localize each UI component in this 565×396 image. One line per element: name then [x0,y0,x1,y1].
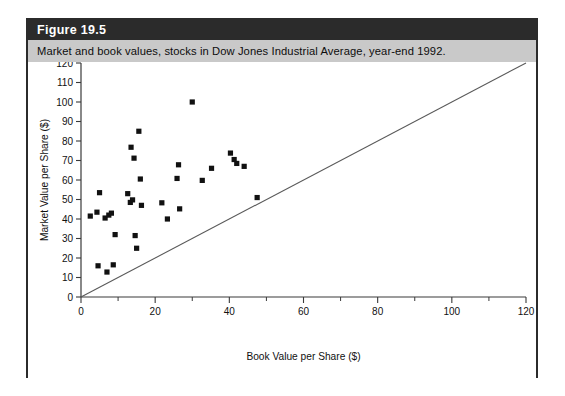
data-point [139,203,144,208]
data-point [104,269,109,274]
figure-number-label: Figure 19.5 [37,23,106,37]
x-tick-label: 20 [150,306,162,317]
data-point [159,200,164,205]
figure-header-bar: Figure 19.5 [28,20,536,40]
x-tick-label: 60 [298,306,310,317]
y-axis-title: Market Value per Share ($) [39,119,50,241]
data-point [190,99,195,104]
data-point [133,233,138,238]
data-point [174,176,179,181]
data-point [111,262,116,267]
data-point [134,246,139,251]
data-point [88,213,93,218]
data-point [242,164,247,169]
data-point [176,162,181,167]
y-tick-label: 50 [62,194,74,205]
x-tick-label: 120 [518,306,535,317]
y-tick-label: 0 [67,292,73,303]
figure-caption-bar: Market and book values, stocks in Dow Jo… [28,40,536,62]
data-point [138,176,143,181]
x-tick-label: 100 [443,306,460,317]
reference-line [81,63,526,297]
reference-line-45deg [81,63,526,297]
data-point [131,156,136,161]
data-point [128,145,133,150]
y-tick-label: 80 [62,136,74,147]
y-tick-label: 110 [57,77,73,88]
scatter-plot-area: 0102030405060708090100110120020406080100… [28,62,536,378]
y-tick-label: 120 [56,62,73,69]
x-tick-label: 40 [224,306,236,317]
figure-container: Figure 19.5 Market and book values, stoc… [26,18,538,378]
data-point [95,263,100,268]
data-point [130,197,135,202]
y-tick-label: 10 [62,272,74,283]
x-axis-title: Book Value per Share ($) [246,351,360,362]
y-tick-label: 20 [62,253,74,264]
data-point [234,161,239,166]
data-point [113,232,118,237]
data-point [177,206,182,211]
scatter-plot-svg: 0102030405060708090100110120020406080100… [28,62,536,378]
data-point [109,211,114,216]
y-tick-label: 60 [62,175,74,186]
data-point [209,166,214,171]
data-point [228,150,233,155]
data-point [255,195,260,200]
data-point [165,216,170,221]
y-tick-label: 30 [62,233,74,244]
data-point [94,210,99,215]
data-point [97,190,102,195]
y-tick-label: 90 [62,116,74,127]
x-tick-label: 0 [78,306,84,317]
x-tick-label: 80 [372,306,384,317]
y-tick-label: 40 [62,214,74,225]
data-point [200,178,205,183]
figure-caption-text: Market and book values, stocks in Dow Jo… [37,45,446,57]
data-point [125,191,130,196]
y-tick-label: 70 [62,155,74,166]
y-tick-label: 100 [56,97,73,108]
data-point [136,129,141,134]
